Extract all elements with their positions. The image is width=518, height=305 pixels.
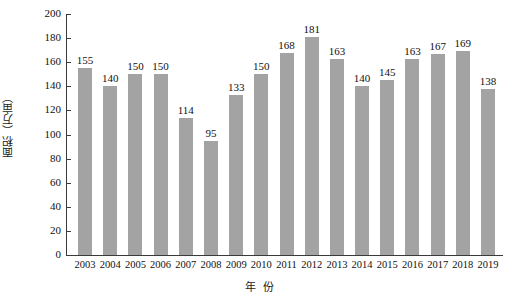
x-axis-tick-label: 2014 <box>352 259 373 270</box>
y-axis-title: 面积（万亩） <box>2 92 18 158</box>
y-axis-tick-label: 120 <box>31 103 61 115</box>
x-axis-tick-label: 2017 <box>427 259 448 270</box>
bar-value-label: 150 <box>127 60 144 72</box>
x-axis-title-part1: 年 <box>245 281 256 293</box>
x-axis-tick-label: 2005 <box>125 259 146 270</box>
bar: 138 <box>481 89 495 255</box>
x-axis-tick-label: 2007 <box>175 259 196 270</box>
y-axis-tick-label: 140 <box>31 79 61 91</box>
bar: 150 <box>154 74 168 255</box>
y-axis-tick-label: 160 <box>31 55 61 67</box>
bar-value-label: 140 <box>102 72 119 84</box>
y-axis-tick-label: 20 <box>31 224 61 236</box>
bar-value-label: 168 <box>278 39 295 51</box>
y-axis-tick-mark <box>67 135 71 136</box>
x-axis-tick-label: 2011 <box>276 259 297 270</box>
bar: 181 <box>305 37 319 255</box>
y-axis-tick-label: 80 <box>31 152 61 164</box>
y-axis-tick-label: 200 <box>31 7 61 19</box>
bar-value-label: 138 <box>480 75 497 87</box>
y-axis-tick-label: 40 <box>31 200 61 212</box>
y-axis-tick-mark <box>67 159 71 160</box>
bar: 163 <box>405 59 419 255</box>
y-axis-tick-mark <box>67 110 71 111</box>
x-axis-tick-label: 2019 <box>478 259 499 270</box>
x-axis-tick-label: 2009 <box>226 259 247 270</box>
x-axis-line <box>66 255 503 256</box>
bar: 145 <box>380 80 394 255</box>
y-axis-tick-mark <box>67 14 71 15</box>
y-axis-tick-mark <box>67 38 71 39</box>
x-axis-title: 年份 <box>0 278 518 294</box>
bar-value-label: 150 <box>152 60 169 72</box>
bar-value-label: 133 <box>228 81 245 93</box>
bar: 114 <box>179 118 193 255</box>
bar-value-label: 169 <box>455 37 472 49</box>
x-axis-tick-label: 2004 <box>100 259 121 270</box>
bar-value-label: 181 <box>303 23 320 35</box>
y-axis-tick-mark <box>67 255 71 256</box>
bar: 150 <box>254 74 268 255</box>
bar: 168 <box>280 53 294 255</box>
bar-value-label: 150 <box>253 60 270 72</box>
bar-value-label: 145 <box>379 66 396 78</box>
y-axis-tick-mark <box>67 183 71 184</box>
plot-area: 020406080100120140160180200 155140150150… <box>66 14 503 255</box>
y-axis-tick-mark <box>67 231 71 232</box>
x-axis-tick-label: 2008 <box>200 259 221 270</box>
bar-value-label: 167 <box>429 40 446 52</box>
bar-value-label: 163 <box>404 45 421 57</box>
bar-value-label: 163 <box>329 45 346 57</box>
x-axis-tick-label: 2013 <box>326 259 347 270</box>
y-axis-tick-label: 60 <box>31 176 61 188</box>
x-axis-tick-label: 2010 <box>251 259 272 270</box>
y-axis-tick-label: 180 <box>31 31 61 43</box>
bar-value-label: 95 <box>205 127 216 139</box>
x-axis-tick-label: 2003 <box>75 259 96 270</box>
bar-value-label: 155 <box>77 54 94 66</box>
y-axis-tick-mark <box>67 86 71 87</box>
x-axis-tick-label: 2015 <box>377 259 398 270</box>
bar-value-label: 140 <box>354 72 371 84</box>
bar-value-label: 114 <box>178 104 194 116</box>
x-axis-tick-label: 2016 <box>402 259 423 270</box>
x-axis-tick-label: 2012 <box>301 259 322 270</box>
bar: 167 <box>431 54 445 255</box>
bar: 140 <box>355 86 369 255</box>
x-axis-tick-label: 2006 <box>150 259 171 270</box>
bar: 169 <box>456 51 470 255</box>
x-axis-title-part2: 份 <box>263 281 274 293</box>
bar: 95 <box>204 141 218 255</box>
x-axis-tick-label: 2018 <box>452 259 473 270</box>
y-axis-tick-mark <box>67 207 71 208</box>
bar: 155 <box>78 68 92 255</box>
y-axis-tick-label: 100 <box>31 128 61 140</box>
bar: 163 <box>330 59 344 255</box>
bar: 140 <box>103 86 117 255</box>
y-axis-tick-mark <box>67 62 71 63</box>
bar: 150 <box>128 74 142 255</box>
y-axis-tick-label: 0 <box>31 248 61 260</box>
bar: 133 <box>229 95 243 255</box>
chart-figure: 面积（万亩） 020406080100120140160180200 15514… <box>0 0 518 305</box>
